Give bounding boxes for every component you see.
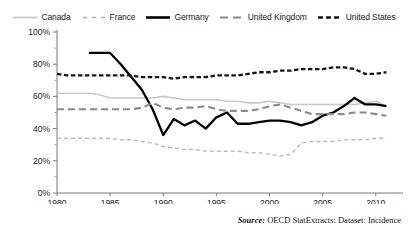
chart-canvas: 100%80%60%40%20%0%1980198519901995200020…: [0, 24, 409, 204]
svg-text:1985: 1985: [101, 198, 120, 204]
chart-legend: Canada France Germany United Kingdom Uni…: [0, 9, 409, 25]
legend-label-germany: Germany: [174, 12, 208, 22]
legend-item-france: France: [82, 12, 136, 22]
chart-figure: Canada France Germany United Kingdom Uni…: [0, 0, 409, 232]
legend-swatch-france-icon: [82, 13, 106, 22]
source-note: Source: OECD StatExtracts: Dataset: Inci…: [238, 215, 401, 225]
svg-text:100%: 100%: [28, 27, 50, 37]
svg-text:1990: 1990: [154, 198, 173, 204]
legend-label-france: France: [110, 12, 136, 22]
legend-item-canada: Canada: [13, 12, 70, 22]
plot-area: 100%80%60%40%20%0%1980198519901995200020…: [0, 24, 409, 204]
legend-swatch-united-states-icon: [318, 13, 342, 22]
svg-text:2010: 2010: [366, 198, 385, 204]
series-line-canada: [57, 93, 386, 106]
series-line-united-states: [57, 67, 386, 78]
svg-text:40%: 40%: [33, 124, 50, 134]
svg-text:60%: 60%: [33, 91, 50, 101]
svg-text:80%: 80%: [33, 59, 50, 69]
source-lead: Source:: [238, 215, 265, 225]
svg-text:0%: 0%: [38, 188, 51, 198]
svg-text:2000: 2000: [260, 198, 279, 204]
legend-label-canada: Canada: [41, 12, 70, 22]
series-line-france: [57, 138, 386, 156]
legend-swatch-united-kingdom-icon: [220, 13, 244, 22]
legend-item-germany: Germany: [146, 12, 208, 22]
legend-swatch-canada-icon: [13, 13, 37, 22]
series-line-germany: [89, 53, 387, 135]
svg-text:1995: 1995: [207, 198, 226, 204]
svg-text:2005: 2005: [313, 198, 332, 204]
legend-item-united-kingdom: United Kingdom: [220, 12, 307, 22]
legend-item-united-states: United States: [318, 12, 396, 22]
legend-label-united-states: United States: [346, 12, 396, 22]
source-text: OECD StatExtracts: Dataset: Incidence: [265, 215, 401, 225]
legend-swatch-germany-icon: [146, 13, 170, 22]
svg-text:20%: 20%: [33, 156, 50, 166]
svg-text:1980: 1980: [48, 198, 67, 204]
legend-label-united-kingdom: United Kingdom: [248, 12, 307, 22]
